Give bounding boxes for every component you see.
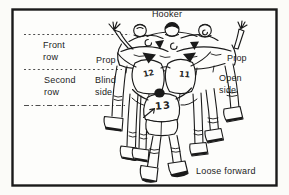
label-front-row: Front row [43,40,77,63]
label-open-side: Open side [219,73,247,96]
label-blind-side: Blind side [95,75,123,98]
label-prop-left: Prop [96,55,116,67]
label-second-row: Second row [44,75,80,98]
jersey-number-13: 13 [155,99,172,111]
label-hooker: Hooker [144,9,190,21]
label-loose-forward: Loose forward [196,166,256,178]
jersey-number-11: 11 [179,69,191,79]
loose-forward-head [154,88,164,97]
scrum-diagram: Hooker Front row Prop Prop Second row Bl… [0,0,289,195]
label-prop-right: Prop [227,53,247,65]
